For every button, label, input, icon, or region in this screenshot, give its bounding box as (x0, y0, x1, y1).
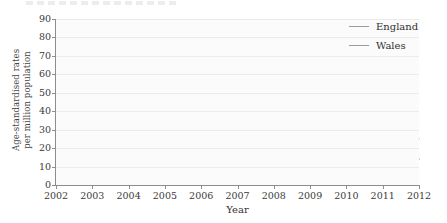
gridline (56, 93, 419, 94)
x-tick-label: 2005 (153, 190, 177, 201)
line-chart: Age-standardised rates per million popul… (0, 0, 447, 223)
legend-item-england[interactable]: England (349, 17, 445, 36)
y-tick-label: 80 (11, 31, 51, 42)
gridline (56, 167, 419, 168)
legend: England Wales (349, 17, 445, 55)
x-tick-label: 2002 (44, 190, 68, 201)
x-tick-label: 2010 (334, 190, 358, 201)
x-tick-label: 2012 (407, 190, 431, 201)
x-tick-label: 2004 (117, 190, 141, 201)
x-axis-line (55, 185, 420, 186)
y-tick-label: 40 (11, 105, 51, 116)
x-tick-label: 2007 (225, 190, 249, 201)
x-tick-label: 2008 (262, 190, 286, 201)
y-tick-label: 10 (11, 161, 51, 172)
y-tick-label: 30 (11, 124, 51, 135)
legend-line-icon-wales (349, 45, 369, 46)
y-tick-label: 60 (11, 68, 51, 79)
legend-item-wales[interactable]: Wales (349, 36, 445, 55)
gridline (56, 74, 419, 75)
x-tick-label: 2006 (189, 190, 213, 201)
legend-line-icon-england (349, 26, 369, 27)
cropped-title-artifact (26, 1, 176, 5)
x-tick-label: 2003 (80, 190, 104, 201)
x-tick-label: 2009 (298, 190, 322, 201)
legend-label-england: England (376, 21, 418, 32)
gridline (56, 148, 419, 149)
y-tick-label: 70 (11, 50, 51, 61)
y-tick-label: 90 (11, 13, 51, 24)
y-tick-label: 20 (11, 142, 51, 153)
legend-label-wales: Wales (376, 40, 406, 51)
gridline (56, 56, 419, 57)
y-axis-line (55, 19, 56, 185)
gridline (56, 111, 419, 112)
x-tick-label: 2011 (371, 190, 395, 201)
y-tick-label: 50 (11, 87, 51, 98)
gridline (56, 130, 419, 131)
y-tick-label: 0 (11, 179, 51, 190)
x-axis-title: Year (56, 204, 419, 215)
